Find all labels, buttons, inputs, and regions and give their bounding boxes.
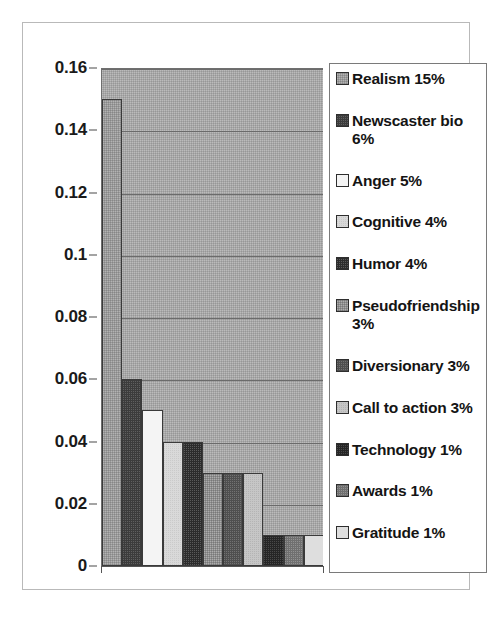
bar-gratitude[interactable] [304,535,323,566]
legend-item[interactable]: Gratitude 1% [336,524,482,542]
legend-item[interactable]: Technology 1% [336,441,482,459]
legend-item[interactable]: Humor 4% [336,255,482,273]
y-axis-tick-label: 0.08 [55,307,87,327]
legend-item-label: Newscaster bio 6% [352,112,482,148]
legend-swatch-icon [336,174,349,187]
legend-item[interactable]: Newscaster bio 6% [336,112,482,148]
chart-frame: 0.160.140.120.10.080.060.040.020 Realism… [22,22,470,590]
legend-swatch-icon [336,526,349,539]
chart-legend: Realism 15%Newscaster bio 6%Anger 5%Cogn… [329,63,487,573]
x-axis-tick-right [323,566,324,573]
legend-swatch-icon [336,299,349,312]
y-axis-tick-mark [89,566,97,567]
legend-item[interactable]: Call to action 3% [336,399,482,417]
y-axis-tick-label: 0 [78,556,87,576]
legend-item-label: Anger 5% [352,172,422,190]
legend-item-label: Call to action 3% [352,399,473,417]
legend-item-label: Realism 15% [352,70,445,88]
legend-swatch-icon [336,215,349,228]
bar-series [102,69,323,566]
legend-item[interactable]: Realism 15% [336,70,482,88]
y-axis-tick-label: 0.06 [55,369,87,389]
bar-newscaster-bio[interactable] [122,379,142,566]
legend-item[interactable]: Awards 1% [336,482,482,500]
y-axis-tick-mark [89,68,97,69]
y-axis-tick-mark [89,503,97,504]
plot-area [101,68,323,566]
y-axis-tick-mark [89,379,97,380]
legend-swatch-icon [336,114,349,127]
y-axis-tick-mark [89,130,97,131]
legend-item-label: Pseudofriendship 3% [352,297,482,333]
legend-item-label: Gratitude 1% [352,524,445,542]
y-axis: 0.160.140.120.10.080.060.040.020 [45,68,97,566]
bar-humor[interactable] [183,442,203,567]
legend-item[interactable]: Cognitive 4% [336,213,482,231]
x-axis-tick-left [101,566,102,573]
bar-call-to-action[interactable] [243,473,263,566]
legend-swatch-icon [336,401,349,414]
bar-cognitive[interactable] [163,442,183,567]
bar-pseudofriendship[interactable] [203,473,223,566]
legend-swatch-icon [336,257,349,270]
legend-item-label: Awards 1% [352,482,433,500]
y-axis-tick-mark [89,441,97,442]
y-axis-tick-mark [89,254,97,255]
y-axis-tick-label: 0.16 [55,58,87,78]
legend-item-label: Humor 4% [352,255,427,273]
bar-technology[interactable] [263,535,283,566]
legend-item[interactable]: Diversionary 3% [336,357,482,375]
legend-item-label: Diversionary 3% [352,357,470,375]
chart-figure: 0.160.140.120.10.080.060.040.020 Realism… [0,0,492,620]
x-axis-line [101,566,324,567]
legend-item-label: Cognitive 4% [352,213,447,231]
legend-item[interactable]: Pseudofriendship 3% [336,297,482,333]
legend-swatch-icon [336,484,349,497]
y-axis-tick-label: 0.14 [55,120,87,140]
y-axis-tick-label: 0.04 [55,432,87,452]
y-axis-tick-label: 0.1 [64,245,87,265]
legend-item-label: Technology 1% [352,441,462,459]
y-axis-tick-mark [89,317,97,318]
bar-anger[interactable] [142,410,162,566]
y-axis-tick-label: 0.12 [55,183,87,203]
legend-item[interactable]: Anger 5% [336,172,482,190]
legend-swatch-icon [336,443,349,456]
y-axis-tick-mark [89,192,97,193]
bar-diversionary[interactable] [223,473,243,566]
legend-swatch-icon [336,359,349,372]
legend-swatch-icon [336,72,349,85]
bar-awards[interactable] [284,535,304,566]
bar-realism[interactable] [102,99,122,566]
y-axis-tick-label: 0.02 [55,494,87,514]
